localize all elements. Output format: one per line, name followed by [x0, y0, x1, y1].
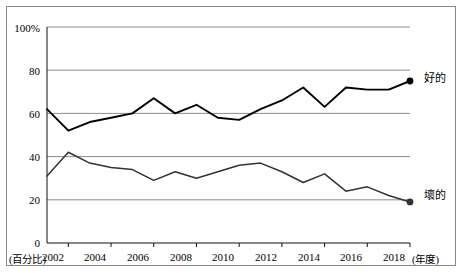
series-line-good — [47, 81, 410, 131]
x-tick-label-2004: 2004 — [75, 251, 115, 263]
x-tick-label-2008: 2008 — [161, 251, 201, 263]
x-axis-unit-label: (年度) — [412, 251, 439, 266]
series-label-bad: 壞的 — [424, 186, 446, 202]
series-endpoint-good — [407, 78, 414, 85]
y-tick-label-80: 80 — [0, 65, 40, 77]
y-tick-label-20: 20 — [0, 194, 40, 206]
x-tick-label-2010: 2010 — [203, 251, 243, 263]
series-line-bad — [47, 152, 410, 202]
x-tick-label-2014: 2014 — [289, 251, 329, 263]
data-series-group — [47, 78, 413, 206]
x-tick-label-2012: 2012 — [246, 251, 286, 263]
x-tick-label-2006: 2006 — [118, 251, 158, 263]
gridlines-group — [47, 27, 410, 200]
x-tick-label-2016: 2016 — [331, 251, 371, 263]
y-tick-label-100: 100% — [0, 22, 40, 34]
y-tick-label-60: 60 — [0, 108, 40, 120]
series-endpoint-bad — [407, 199, 414, 206]
x-tick-label-2018: 2018 — [374, 251, 414, 263]
y-tick-label-0: 0 — [0, 237, 40, 249]
axes-group — [47, 27, 410, 243]
line-chart-plot — [0, 0, 464, 273]
x-tick-label-2002: 2002 — [33, 251, 73, 263]
x-tick-marks-group — [68, 243, 410, 247]
y-tick-label-40: 40 — [0, 151, 40, 163]
series-label-good: 好的 — [424, 69, 446, 85]
chart-root: 100% 80 60 40 20 0 (百分比) 2002 2004 2006 … — [0, 0, 464, 273]
